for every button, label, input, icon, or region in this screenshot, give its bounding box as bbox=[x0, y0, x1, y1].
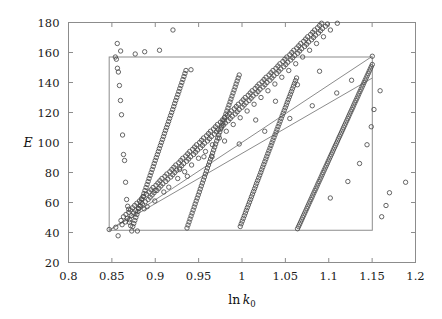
data-point bbox=[189, 68, 193, 72]
x-tick-label-2: 0.9 bbox=[146, 269, 164, 283]
data-point bbox=[248, 197, 252, 201]
data-point bbox=[202, 155, 206, 159]
data-point bbox=[275, 127, 279, 131]
y-tick-label-0: 20 bbox=[45, 256, 60, 270]
data-point bbox=[384, 203, 388, 207]
data-point bbox=[273, 99, 277, 103]
y-tick-label-4: 100 bbox=[38, 136, 60, 150]
scatter-plot-figure: 0.80.850.90.9511.051.11.151.2 2040608010… bbox=[0, 0, 442, 319]
data-point bbox=[203, 149, 207, 153]
data-point bbox=[278, 119, 282, 123]
data-point bbox=[254, 181, 258, 185]
data-point bbox=[328, 196, 332, 200]
data-point bbox=[245, 109, 249, 113]
data-point bbox=[245, 205, 249, 209]
y-axis-title: E bbox=[22, 135, 32, 150]
data-point bbox=[238, 224, 242, 228]
data-point bbox=[240, 219, 244, 223]
data-point bbox=[264, 157, 268, 161]
data-point bbox=[259, 95, 263, 99]
y-tick-label-1: 40 bbox=[45, 226, 60, 240]
data-point bbox=[259, 168, 263, 172]
data-point bbox=[254, 118, 258, 122]
data-point bbox=[122, 158, 126, 162]
data-point bbox=[222, 139, 226, 143]
data-point bbox=[335, 91, 339, 95]
data-point bbox=[196, 156, 200, 160]
data-point bbox=[286, 97, 290, 101]
data-point bbox=[379, 215, 383, 219]
x-axis-title: ln k0 bbox=[228, 292, 256, 309]
data-point bbox=[283, 106, 287, 110]
x-tick-label-1: 0.85 bbox=[99, 269, 125, 283]
data-point bbox=[125, 204, 129, 208]
data-point bbox=[231, 122, 235, 126]
data-point bbox=[328, 28, 332, 32]
data-point bbox=[288, 116, 292, 120]
data-point bbox=[263, 160, 267, 164]
data-point bbox=[130, 229, 134, 233]
data-point bbox=[365, 143, 369, 147]
data-point bbox=[307, 48, 311, 52]
data-point bbox=[252, 187, 256, 191]
data-point bbox=[265, 154, 269, 158]
data-point bbox=[238, 116, 242, 120]
axis-titles: Eln k0 bbox=[22, 135, 255, 309]
data-point bbox=[270, 141, 274, 145]
data-point bbox=[317, 69, 321, 73]
data-point bbox=[244, 208, 248, 212]
data-point bbox=[251, 189, 255, 193]
data-point bbox=[284, 103, 288, 107]
data-point bbox=[268, 146, 272, 150]
data-point bbox=[123, 180, 127, 184]
y-tick-label-7: 160 bbox=[38, 46, 60, 60]
y-tick-label-6: 140 bbox=[38, 76, 60, 90]
data-point bbox=[185, 174, 189, 178]
data-point bbox=[119, 113, 123, 117]
data-point bbox=[118, 49, 122, 53]
data-point bbox=[294, 62, 298, 66]
y-tick-label-2: 60 bbox=[45, 196, 60, 210]
data-point bbox=[241, 216, 245, 220]
data-point bbox=[267, 149, 271, 153]
data-point bbox=[294, 76, 298, 80]
data-point bbox=[182, 170, 186, 174]
data-point bbox=[242, 214, 246, 218]
annotation-shapes bbox=[109, 56, 372, 230]
band-upper-bound bbox=[109, 56, 372, 230]
data-point bbox=[247, 200, 251, 204]
x-tick-label-0: 0.8 bbox=[59, 269, 77, 283]
data-point bbox=[246, 203, 250, 207]
x-tick-labels: 0.80.850.90.9511.051.11.151.2 bbox=[59, 269, 424, 283]
data-point bbox=[116, 234, 120, 238]
data-point bbox=[280, 75, 284, 79]
data-point bbox=[266, 151, 270, 155]
y-tick-label-8: 180 bbox=[38, 16, 60, 30]
data-point bbox=[142, 50, 146, 54]
data-point bbox=[263, 129, 267, 133]
data-point bbox=[369, 125, 373, 129]
x-tick-label-6: 1.1 bbox=[320, 269, 338, 283]
data-point bbox=[272, 135, 276, 139]
data-point bbox=[277, 122, 281, 126]
data-point bbox=[269, 143, 273, 147]
data-point bbox=[171, 28, 175, 32]
data-point bbox=[261, 165, 265, 169]
data-point bbox=[262, 162, 266, 166]
data-point bbox=[259, 170, 263, 174]
data-point bbox=[117, 83, 121, 87]
data-point bbox=[346, 179, 350, 183]
data-point bbox=[121, 152, 125, 156]
data-point bbox=[243, 211, 247, 215]
data-point bbox=[271, 138, 275, 142]
data-point bbox=[288, 92, 292, 96]
data-point bbox=[273, 82, 277, 86]
data-point bbox=[287, 95, 291, 99]
data-point bbox=[289, 89, 293, 93]
x-tick-label-4: 1 bbox=[238, 269, 245, 283]
data-point bbox=[249, 195, 253, 199]
data-point bbox=[287, 68, 291, 72]
data-point bbox=[120, 133, 124, 137]
data-point bbox=[276, 124, 280, 128]
data-point bbox=[189, 163, 193, 167]
